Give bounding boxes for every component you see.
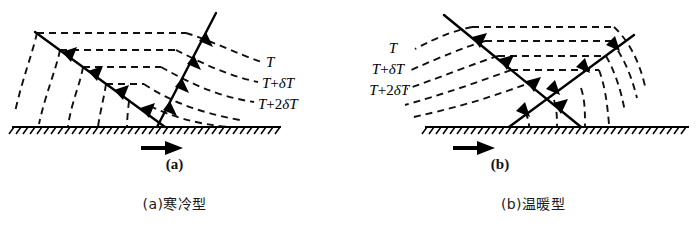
isotherm-right-3 — [606, 56, 625, 112]
isotherm-left-1 — [15, 33, 37, 112]
panel-b-caption: (b)温暖型 — [359, 193, 697, 213]
front-lines — [35, 13, 216, 127]
panel-a-sub-label: (a) — [0, 156, 349, 173]
isotherm-label-1: T — [389, 40, 399, 56]
isotherm-label-2: T+δT — [372, 61, 406, 77]
panel-cold-type: T T+δT T+2δT (a) (a)寒冷型 — [0, 0, 349, 227]
isotherm-labels: T T+δT T+2δT — [369, 40, 410, 98]
surface-flow-arrow — [141, 141, 183, 155]
isotherm-right-4 — [599, 70, 609, 124]
isotherm-left-4 — [98, 84, 106, 127]
isotherm-horizontals-top — [37, 33, 186, 84]
isotherm-left-2 — [39, 50, 60, 124]
panel-b-sub-label: (b) — [326, 156, 674, 173]
isotherm-label-3: T+2δT — [258, 96, 299, 112]
isotherm-left-4 — [405, 70, 511, 105]
ground-surface — [9, 127, 281, 134]
isotherm-labels: T T+δT T+2δT — [258, 54, 299, 112]
isotherm-right-1 — [614, 27, 645, 86]
isotherm-left-3 — [68, 67, 83, 126]
isotherm-label-3: T+2δT — [369, 82, 410, 98]
front-barbs-warm — [163, 32, 213, 116]
ground-surface — [422, 127, 689, 134]
isotherm-right-3 — [161, 67, 254, 102]
isotherm-horizontals-mid — [472, 27, 614, 70]
panel-a-caption: (a)寒冷型 — [0, 193, 349, 213]
isotherm-curves-right — [144, 33, 262, 127]
frontal-zone-figure: T T+δT T+2δT (a) (a)寒冷型 — [0, 0, 697, 227]
isotherm-left-5 — [409, 85, 524, 118]
isotherm-label-1: T — [266, 54, 276, 70]
isotherm-left-3 — [407, 56, 498, 89]
isotherm-right-5 — [581, 88, 585, 126]
front-lines — [444, 15, 634, 127]
isotherm-left-5 — [127, 101, 129, 127]
surface-flow-arrow — [453, 141, 495, 155]
isotherm-curves-left — [405, 27, 524, 118]
isotherm-label-2: T+δT — [262, 75, 296, 91]
isotherm-right-4 — [144, 84, 240, 120]
isotherm-curves-left — [15, 33, 129, 127]
front-barbs-cold — [62, 47, 155, 118]
panel-warm-type: T T+δT T+2δT (b) (b)温暖型 — [349, 0, 697, 227]
front-barbs-warm — [516, 36, 620, 117]
